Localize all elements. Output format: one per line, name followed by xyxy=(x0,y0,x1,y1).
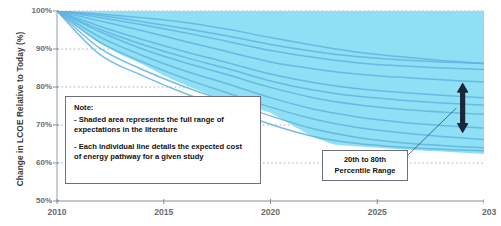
y-tick-label: 70% xyxy=(18,120,52,129)
y-tick-label: 50% xyxy=(18,196,52,205)
y-tick-labels: 100%90%80%70%60%50% xyxy=(18,0,52,226)
note-box-line-3: - Each individual line details the expec… xyxy=(74,142,252,152)
note-box-line-1: - Shaded area represents the full range … xyxy=(74,115,252,125)
note-box-line-4: of energy pathway for a given study xyxy=(74,152,252,162)
x-tick-label: 2020 xyxy=(251,207,291,217)
y-tick-marks xyxy=(53,11,59,201)
y-tick-label: 100% xyxy=(18,6,52,15)
x-tick-label: 2010 xyxy=(37,207,77,217)
percentile-callout-line-2: Percentile Range xyxy=(335,166,396,176)
y-tick-label: 90% xyxy=(18,44,52,53)
x-tick-label: 2025 xyxy=(357,207,397,217)
note-box: Note: - Shaded area represents the full … xyxy=(65,96,261,184)
x-tick-label: 203 xyxy=(482,207,501,217)
percentile-callout-line-1: 20th to 80th xyxy=(344,155,386,165)
x-tick-label: 2015 xyxy=(144,207,184,217)
y-tick-label: 80% xyxy=(18,82,52,91)
percentile-range-callout: 20th to 80th Percentile Range xyxy=(322,150,408,181)
note-box-spacer xyxy=(74,135,252,142)
note-box-line-2: expectations in the literature xyxy=(74,125,252,135)
note-box-title: Note: xyxy=(74,103,252,112)
y-tick-label: 60% xyxy=(18,158,52,167)
